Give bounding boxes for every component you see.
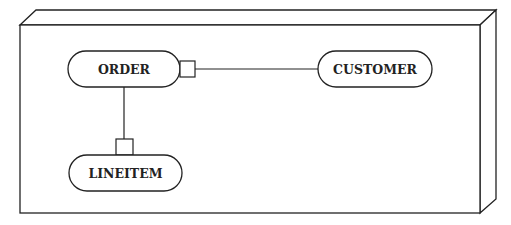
component-order[interactable]: ORDER	[68, 51, 180, 87]
component-customer-label: CUSTOMER	[333, 62, 417, 77]
component-customer[interactable]: CUSTOMER	[318, 51, 432, 87]
component-lineitem[interactable]: LINEITEM	[69, 155, 182, 191]
node-side-face	[480, 10, 496, 213]
diagram-canvas: ORDER CUSTOMER LINEITEM	[0, 0, 511, 225]
component-order-label: ORDER	[98, 62, 151, 77]
component-lineitem-label: LINEITEM	[88, 166, 162, 181]
node-top-face	[20, 10, 496, 25]
port-icon-lineitem-top	[116, 139, 133, 155]
port-icon-order-right	[180, 61, 195, 77]
